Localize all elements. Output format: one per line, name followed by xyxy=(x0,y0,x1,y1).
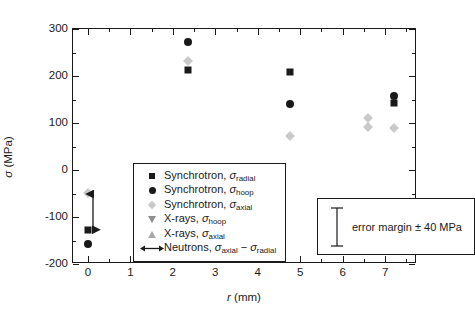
y-tick-major xyxy=(73,76,79,77)
x-tick-minor xyxy=(364,29,365,32)
x-tick-minor xyxy=(237,29,238,32)
x-tick-major xyxy=(343,29,344,35)
legend-item[interactable]: Synchrotron, σhoop xyxy=(140,184,276,199)
x-tick-major xyxy=(343,256,344,262)
x-tick-major xyxy=(385,29,386,35)
y-tick-major xyxy=(409,29,415,30)
y-tick-major xyxy=(73,170,79,171)
legend-item-label: X-rays, σhoop xyxy=(164,213,226,226)
x-tick-minor xyxy=(279,29,280,32)
data-point xyxy=(286,69,293,76)
x-tick-major xyxy=(385,256,386,262)
legend-item-label: Neutrons, σaxial − σradial xyxy=(164,242,276,255)
legend-marker-double-arrow-icon xyxy=(140,244,164,253)
x-tick-major xyxy=(300,29,301,35)
x-tick-label: 4 xyxy=(255,267,261,279)
y-tick-label: 300 xyxy=(49,23,68,35)
y-tick-label: -200 xyxy=(45,258,68,270)
legend-item-label: Synchrotron, σhoop xyxy=(164,184,254,197)
x-tick-major xyxy=(173,29,174,35)
x-tick-label: 1 xyxy=(127,267,133,279)
data-point xyxy=(390,99,397,106)
plot-area: -200-100010020030001234567 Synchrotron, … xyxy=(72,28,416,263)
x-tick-major xyxy=(130,29,131,35)
x-tick-minor xyxy=(321,29,322,32)
x-tick-major xyxy=(300,256,301,262)
x-tick-label: 5 xyxy=(297,267,303,279)
legend-item-label: Synchrotron, σaxial xyxy=(164,199,252,212)
y-axis-sigma-symbol: σ xyxy=(2,170,14,177)
x-tick-major xyxy=(215,29,216,35)
x-tick-label: 7 xyxy=(382,267,388,279)
data-point xyxy=(363,122,373,132)
y-axis-unit: (MPa) xyxy=(2,136,14,167)
y-tick-minor xyxy=(73,100,76,101)
legend-marker-triangle-down-icon xyxy=(140,216,164,223)
y-tick-label: 0 xyxy=(62,164,68,176)
x-tick-label: 2 xyxy=(170,267,176,279)
legend-item[interactable]: Synchrotron, σradial xyxy=(140,169,276,184)
y-axis-title: σ (MPa) xyxy=(2,136,14,177)
x-tick-minor xyxy=(406,29,407,32)
y-tick-major xyxy=(409,170,415,171)
legend: Synchrotron, σradialSynchrotron, σhoopSy… xyxy=(133,163,286,262)
x-tick-minor xyxy=(109,29,110,32)
y-tick-major xyxy=(409,123,415,124)
legend-marker-circle-icon xyxy=(140,187,164,194)
y-tick-label: -100 xyxy=(45,211,68,223)
data-point xyxy=(184,38,192,46)
x-tick-major xyxy=(88,256,89,262)
x-tick-major xyxy=(130,256,131,262)
legend-item[interactable]: Synchrotron, σaxial xyxy=(140,198,276,213)
legend-marker-triangle-up-icon xyxy=(140,231,164,238)
x-tick-label: 0 xyxy=(85,267,91,279)
legend-item-label: X-rays, σaxial xyxy=(164,228,225,241)
data-point xyxy=(184,67,191,74)
x-tick-minor xyxy=(364,259,365,262)
data-point xyxy=(389,123,399,133)
y-tick-minor xyxy=(412,53,415,54)
data-point xyxy=(183,56,193,66)
y-tick-major xyxy=(73,264,79,265)
data-point xyxy=(285,131,295,141)
x-tick-minor xyxy=(194,29,195,32)
x-tick-major xyxy=(258,29,259,35)
x-tick-label: 6 xyxy=(339,267,345,279)
data-point xyxy=(286,100,294,108)
x-tick-minor xyxy=(406,259,407,262)
legend-item[interactable]: Neutrons, σaxial − σradial xyxy=(140,242,276,257)
y-tick-label: 100 xyxy=(49,117,68,129)
legend-item[interactable]: X-rays, σhoop xyxy=(140,213,276,228)
data-point xyxy=(84,240,92,248)
legend-item-label: Synchrotron, σradial xyxy=(164,170,255,183)
x-tick-label: 3 xyxy=(212,267,218,279)
y-tick-label: 200 xyxy=(49,70,68,82)
x-tick-minor xyxy=(109,259,110,262)
x-axis-r-symbol: r xyxy=(227,291,231,303)
y-tick-minor xyxy=(412,100,415,101)
error-margin-label: error margin ± 40 MPa xyxy=(352,221,462,233)
y-tick-minor xyxy=(73,53,76,54)
legend-item[interactable]: X-rays, σaxial xyxy=(140,227,276,242)
x-axis-title: r (mm) xyxy=(227,291,261,303)
x-axis-unit: (mm) xyxy=(234,291,261,303)
y-tick-minor xyxy=(73,147,76,148)
y-tick-minor xyxy=(73,194,76,195)
y-tick-major xyxy=(73,217,79,218)
y-tick-minor xyxy=(73,241,76,242)
y-tick-major xyxy=(73,123,79,124)
error-margin-box: error margin ± 40 MPa xyxy=(317,198,475,255)
y-tick-major xyxy=(409,264,415,265)
data-point xyxy=(390,92,398,100)
x-tick-minor xyxy=(321,259,322,262)
y-tick-major xyxy=(409,76,415,77)
x-tick-minor xyxy=(152,29,153,32)
neutron-range-arrow xyxy=(83,190,103,234)
error-bar-glyph xyxy=(326,205,348,249)
y-tick-minor xyxy=(412,147,415,148)
x-tick-major xyxy=(88,29,89,35)
legend-marker-square-icon xyxy=(140,173,164,179)
y-tick-major xyxy=(73,29,79,30)
y-tick-minor xyxy=(412,194,415,195)
